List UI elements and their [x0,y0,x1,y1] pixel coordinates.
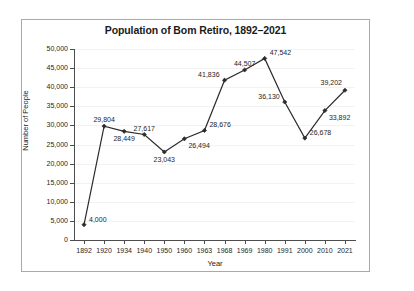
x-axis-line [74,240,356,241]
y-tick-mark [70,221,74,222]
x-tick-label: 1940 [136,247,152,254]
x-tick-label: 2021 [337,247,353,254]
data-point-label: 26,494 [188,142,209,149]
x-tick-mark [325,240,326,244]
y-tick-label: 30,000 [47,121,68,128]
data-point-label: 4,000 [89,216,107,223]
y-tick-label: 10,000 [47,198,68,205]
data-point-label: 28,449 [113,135,134,142]
x-tick-mark [84,240,85,244]
x-tick-label: 2010 [317,247,333,254]
y-tick-mark [70,125,74,126]
y-tick-label: 5,000 [50,217,68,224]
x-tick-label: 1968 [217,247,233,254]
data-point-label: 28,676 [209,121,230,128]
data-point-label: 47,542 [270,49,291,56]
data-point-label: 39,202 [0,79,342,86]
data-point-marker [82,223,86,227]
x-tick-mark [345,240,346,244]
x-tick-label: 1934 [116,247,132,254]
chart-figure: Population of Bom Retiro, 1892–2021 05,0… [0,0,414,291]
data-point-label: 26,678 [310,129,331,136]
data-point-label: 29,804 [93,116,114,123]
data-point-label: 44,507 [234,60,255,67]
x-tick-mark [164,240,165,244]
x-tick-mark [245,240,246,244]
y-tick-label: 0 [64,236,68,243]
x-tick-mark [144,240,145,244]
data-point-label: 41,836 [0,71,220,78]
data-point-label: 27,617 [134,125,155,132]
chart-title: Population of Bom Retiro, 1892–2021 [21,24,370,36]
x-tick-label: 1960 [177,247,193,254]
x-tick-label: 1980 [257,247,273,254]
x-tick-label: 2000 [297,247,313,254]
y-tick-label: 50,000 [47,45,68,52]
y-tick-mark [70,183,74,184]
data-point-label: 23,043 [154,156,175,163]
y-tick-mark [70,240,74,241]
y-tick-mark [70,106,74,107]
x-tick-label: 1892 [76,247,92,254]
y-tick-mark [70,49,74,50]
y-tick-label: 15,000 [47,179,68,186]
x-tick-mark [124,240,125,244]
x-tick-label: 1950 [157,247,173,254]
x-tick-mark [285,240,286,244]
data-point-marker [102,124,106,128]
data-point-label: 36,130 [0,93,280,100]
x-axis-title: Year [74,259,356,268]
y-tick-mark [70,202,74,203]
x-tick-mark [305,240,306,244]
x-tick-mark [225,240,226,244]
x-tick-label: 1969 [237,247,253,254]
x-tick-mark [204,240,205,244]
x-tick-mark [265,240,266,244]
x-tick-label: 1963 [197,247,213,254]
x-tick-mark [104,240,105,244]
y-tick-mark [70,87,74,88]
y-tick-label: 35,000 [47,102,68,109]
data-point-label: 33,892 [329,114,350,121]
y-axis-title: Number of People [21,71,30,171]
data-point-marker [122,129,126,133]
y-tick-label: 20,000 [47,160,68,167]
y-tick-label: 25,000 [47,141,68,148]
data-point-marker [202,128,206,132]
y-tick-mark [70,145,74,146]
x-tick-label: 1920 [96,247,112,254]
y-tick-mark [70,68,74,69]
y-tick-label: 45,000 [47,64,68,71]
x-tick-mark [184,240,185,244]
x-tick-label: 1991 [277,247,293,254]
y-tick-mark [70,164,74,165]
